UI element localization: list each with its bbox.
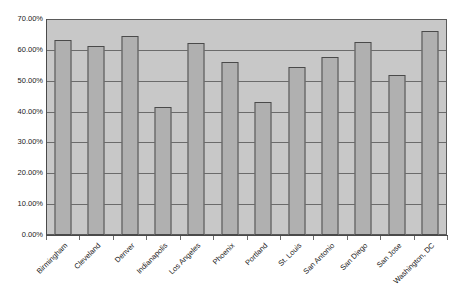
- y-axis-label: 60.00%: [3, 46, 43, 54]
- bar-slot: [414, 19, 447, 235]
- bar-slot: [113, 19, 146, 235]
- bar-slot: [213, 19, 246, 235]
- x-axis-label-text: Los Angeles: [167, 241, 202, 276]
- bar-slot: [380, 19, 413, 235]
- x-axis-label-text: San Antonio: [301, 241, 336, 276]
- bar[interactable]: [154, 107, 171, 235]
- x-axis-tick: [113, 236, 114, 240]
- bar[interactable]: [54, 40, 71, 235]
- x-axis-tick: [380, 236, 381, 240]
- bar-slot: [180, 19, 213, 235]
- x-axis-label-text: St. Louis: [276, 241, 303, 268]
- x-axis-tick: [46, 236, 47, 240]
- x-axis-tick: [447, 236, 448, 240]
- x-axis-tick: [347, 236, 348, 240]
- y-axis-label: 50.00%: [3, 77, 43, 85]
- bar[interactable]: [88, 46, 105, 235]
- x-axis-tick: [79, 236, 80, 240]
- bar-slot: [313, 19, 346, 235]
- bar-slot: [46, 19, 79, 235]
- bar[interactable]: [422, 31, 439, 235]
- bar[interactable]: [355, 42, 372, 235]
- x-axis-label-text: Cleveland: [73, 241, 103, 271]
- bar-slot: [347, 19, 380, 235]
- bar-slot: [247, 19, 280, 235]
- x-axis-label-text: Phoenix: [211, 241, 237, 267]
- x-axis-tick: [213, 236, 214, 240]
- bar[interactable]: [221, 62, 238, 235]
- y-axis-label: 20.00%: [3, 169, 43, 177]
- x-axis-label-text: San Jose: [375, 241, 403, 269]
- x-axis-tick: [313, 236, 314, 240]
- x-axis-tick: [280, 236, 281, 240]
- bar-slot: [280, 19, 313, 235]
- bar-slot: [79, 19, 112, 235]
- bar[interactable]: [322, 57, 339, 235]
- y-axis-label: 0.00%: [3, 231, 43, 239]
- x-axis-tick: [414, 236, 415, 240]
- x-axis-tick: [146, 236, 147, 240]
- y-axis-label: 40.00%: [3, 108, 43, 116]
- bars-layer: [46, 19, 447, 235]
- y-axis-label: 30.00%: [3, 138, 43, 146]
- bar[interactable]: [188, 43, 205, 235]
- bar[interactable]: [288, 67, 305, 235]
- y-axis-label: 70.00%: [3, 15, 43, 23]
- x-axis-tick: [180, 236, 181, 240]
- x-axis-label-text: Indianapolis: [135, 241, 170, 276]
- bar[interactable]: [388, 75, 405, 235]
- x-axis-label-text: Portland: [243, 241, 269, 267]
- x-axis-label-text: Denver: [112, 241, 135, 264]
- bar[interactable]: [121, 36, 138, 235]
- bar[interactable]: [255, 102, 272, 235]
- x-axis-label-text: Birmingham: [34, 241, 69, 276]
- bar-slot: [146, 19, 179, 235]
- bar-chart: 70.00%60.00%50.00%40.00%30.00%20.00%10.0…: [0, 0, 460, 298]
- x-axis-tick: [247, 236, 248, 240]
- y-axis-label: 10.00%: [3, 200, 43, 208]
- x-axis-label-text: San Diego: [339, 241, 370, 272]
